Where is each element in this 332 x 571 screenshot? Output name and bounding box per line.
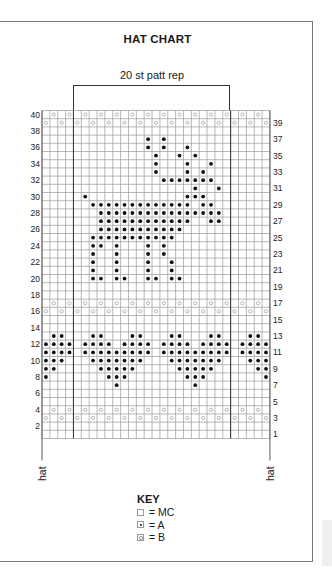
dot-icon: [178, 342, 182, 346]
key-item-a: = A: [137, 519, 174, 532]
dot-icon: [178, 351, 182, 355]
dot-icon: [91, 334, 95, 338]
dot-icon: [99, 203, 103, 207]
dot-icon: [146, 277, 150, 281]
dot-icon: [123, 375, 127, 379]
dot-icon: [123, 359, 127, 363]
dot-icon: [146, 203, 150, 207]
key-item-label: = B: [149, 531, 165, 543]
row-number: 23: [273, 249, 283, 259]
dot-icon: [146, 342, 150, 346]
dot-icon: [162, 236, 166, 240]
dot-icon: [201, 195, 205, 199]
dot-icon: [217, 187, 221, 191]
row-number: 9: [273, 364, 278, 374]
dot-icon: [162, 137, 166, 141]
dot-icon: [91, 277, 95, 281]
row-number: 35: [273, 151, 283, 161]
dot-icon: [130, 228, 134, 232]
row-number: 34: [31, 159, 41, 169]
dot-icon: [201, 203, 205, 207]
dot-icon: [146, 146, 150, 150]
dot-icon: [99, 244, 103, 248]
dot-icon: [201, 359, 205, 363]
dot-icon: [123, 351, 127, 355]
dot-icon: [162, 146, 166, 150]
dot-icon: [193, 211, 197, 215]
key-title: KEY: [137, 493, 174, 505]
dot-icon: [52, 342, 56, 346]
dot-icon: [186, 178, 190, 182]
dot-icon: [209, 351, 213, 355]
dot-icon: [193, 383, 197, 387]
dot-icon: [264, 342, 268, 346]
dot-icon: [99, 342, 103, 346]
dot-icon: [91, 203, 95, 207]
dot-icon: [91, 342, 95, 346]
dot-icon: [186, 367, 190, 371]
dot-icon: [146, 244, 150, 248]
dot-icon: [178, 228, 182, 232]
dot-icon: [123, 211, 127, 215]
dot-icon: [162, 228, 166, 232]
dot-icon: [99, 359, 103, 363]
dot-icon: [186, 195, 190, 199]
row-number: 19: [273, 282, 283, 292]
dot-icon: [209, 334, 213, 338]
row-number: 29: [273, 200, 283, 210]
dot-icon: [264, 351, 268, 355]
row-number: 33: [273, 167, 283, 177]
dot-icon: [146, 219, 150, 223]
dot-icon: [201, 178, 205, 182]
key-item-label: = MC: [149, 506, 174, 518]
dot-icon: [170, 260, 174, 264]
dot-icon: [146, 211, 150, 215]
dot-icon: [256, 342, 260, 346]
dot-icon: [264, 359, 268, 363]
dot-icon: [162, 244, 166, 248]
dot-icon: [123, 203, 127, 207]
dot-icon: [91, 351, 95, 355]
chart-key: KEY = MC = A = B: [137, 493, 174, 544]
dot-icon: [83, 342, 87, 346]
dot-icon: [170, 228, 174, 232]
dot-icon: [130, 203, 134, 207]
key-item-mc: = MC: [137, 506, 174, 519]
dot-icon: [178, 203, 182, 207]
row-number: 2: [35, 421, 40, 431]
dot-icon: [186, 219, 190, 223]
dot-icon: [83, 195, 87, 199]
dot-icon: [83, 351, 87, 355]
dot-icon: [107, 367, 111, 371]
dot-icon: [115, 260, 119, 264]
dot-icon: [162, 211, 166, 215]
dot-icon: [60, 342, 64, 346]
dot-icon: [178, 367, 182, 371]
dot-icon: [99, 236, 103, 240]
dot-icon: [186, 203, 190, 207]
circle-icon: [137, 534, 144, 541]
row-number: 12: [31, 339, 41, 349]
dot-icon: [225, 342, 229, 346]
dot-icon: [115, 219, 119, 223]
dot-icon: [115, 367, 119, 371]
dot-icon: [154, 154, 158, 158]
dot-icon: [91, 260, 95, 264]
dot-icon: [138, 334, 142, 338]
dot-icon: [154, 277, 158, 281]
dot-icon: [130, 334, 134, 338]
row-number: 25: [273, 233, 283, 243]
dot-icon: [201, 342, 205, 346]
row-number: 20: [31, 274, 41, 284]
row-number: 5: [273, 397, 278, 407]
dot-icon: [248, 351, 252, 355]
dot-icon: [178, 211, 182, 215]
row-number: 37: [273, 134, 283, 144]
dot-icon: [162, 342, 166, 346]
dot-icon: [146, 228, 150, 232]
dot-icon: [170, 178, 174, 182]
row-number: 27: [273, 216, 283, 226]
dot-icon: [44, 342, 48, 346]
dot-icon: [146, 269, 150, 273]
row-number: 24: [31, 241, 41, 251]
